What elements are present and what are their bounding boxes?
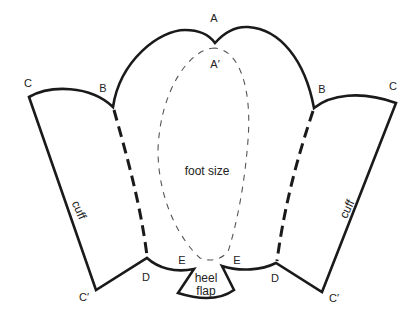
point-label-d-right: D: [271, 273, 279, 284]
pattern-diagram: A A′ B B C C C′ C′ D D E E foot size cuf…: [0, 0, 417, 334]
point-label-e-left: E: [178, 255, 185, 266]
point-label-b-left: B: [99, 83, 106, 94]
foot-size-outline: [158, 48, 249, 260]
region-label-foot-size: foot size: [185, 165, 230, 177]
point-label-c-right: C: [389, 81, 397, 92]
point-label-d-left: D: [142, 272, 150, 283]
fold-line-left: [114, 110, 147, 256]
point-label-a: A: [210, 13, 217, 24]
fold-line-right: [277, 111, 313, 261]
point-label-c-prime-left: C′: [79, 292, 89, 303]
point-label-c-prime-right: C′: [329, 293, 339, 304]
point-label-e-right: E: [233, 255, 240, 266]
region-label-heel-flap: heel flap: [195, 272, 218, 298]
point-label-a-prime: A′: [210, 59, 219, 70]
point-label-b-right: B: [318, 84, 325, 95]
point-label-c-left: C: [24, 78, 32, 89]
heel-flap-line-2: flap: [195, 285, 218, 298]
